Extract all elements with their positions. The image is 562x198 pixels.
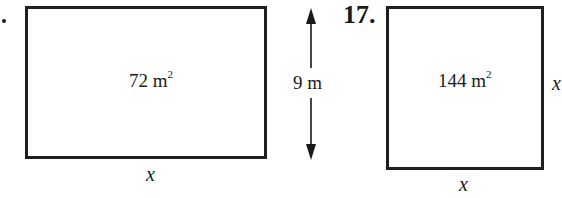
square-side-label-right: x [552, 72, 561, 95]
height-label: 9 m [293, 68, 322, 98]
rectangle-area-label: 72 m2 [129, 70, 173, 92]
rectangle-width-label: x [146, 163, 155, 186]
square-side-label-bottom: x [459, 173, 468, 196]
problem-number-dot [2, 19, 6, 23]
square-area-label: 144 m2 [438, 70, 492, 92]
problem-number: 17. [343, 0, 376, 30]
